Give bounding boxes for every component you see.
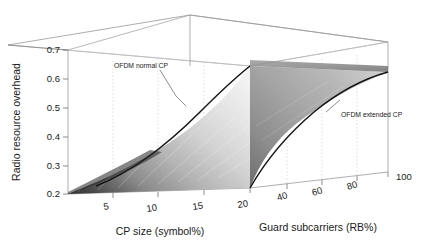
surface-plot-figure: OFDM normal CP OFDM extended CP 0.7 0.6 … <box>0 0 429 251</box>
x-tick-2: 15 <box>192 199 204 212</box>
z-tick-1: 0.6 <box>47 73 60 84</box>
z-axis-tick-labels: 0.7 0.6 0.5 0.4 0.3 0.2 <box>47 44 60 199</box>
surface-right-panel <box>250 66 388 188</box>
annotation-ofdm-extended-cp: OFDM extended CP <box>341 111 403 118</box>
box-top-front-edges <box>8 42 388 66</box>
z-tick-4: 0.3 <box>47 160 60 171</box>
z-tick-5: 0.2 <box>47 188 60 199</box>
x-tick-0: 5 <box>103 200 110 212</box>
z-tick-3: 0.4 <box>47 131 60 142</box>
y-tick-0: 40 <box>275 189 288 203</box>
x-axis-tick-labels: 5 10 15 20 <box>103 197 249 214</box>
y-axis-tick-labels: 40 60 80 100 <box>275 171 411 203</box>
z-tick-2: 0.5 <box>47 102 60 113</box>
y-tick-3: 100 <box>396 171 412 182</box>
back-wall-edges <box>68 15 388 50</box>
z-axis-title: Radio resource overhead <box>10 63 22 181</box>
annotation-ofdm-normal-cp: OFDM normal CP <box>114 62 168 69</box>
leader-normal-cp <box>160 70 186 106</box>
y-axis-title: Guard subcarriers (RB%) <box>259 221 377 233</box>
plot-canvas: OFDM normal CP OFDM extended CP 0.7 0.6 … <box>0 0 429 251</box>
box-top-rear-edges <box>8 15 388 45</box>
x-tick-3: 20 <box>237 197 249 210</box>
x-axis-title: CP size (symbol%) <box>116 225 205 237</box>
y-axis-ticks <box>287 172 388 189</box>
z-tick-0: 0.7 <box>47 44 60 55</box>
z-axis-ticks <box>63 50 68 194</box>
y-tick-1: 60 <box>310 184 323 198</box>
x-tick-1: 10 <box>146 201 158 214</box>
